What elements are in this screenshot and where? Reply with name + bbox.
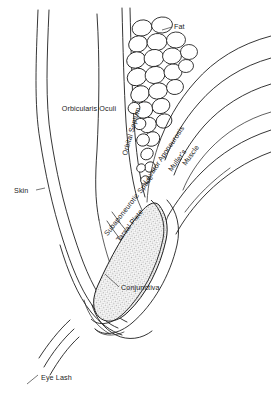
fat-globule: [142, 48, 165, 69]
fat-globule: [147, 81, 170, 102]
fat-globule: [143, 64, 167, 85]
mullers-muscle-fiber: [185, 168, 230, 212]
label-skin: Skin: [14, 186, 28, 195]
fat-globule: [128, 83, 152, 106]
mullers-muscle-upper-border: [168, 130, 271, 216]
label-orbicularis-oculi: Orbicularis Oculi: [60, 104, 118, 113]
mullers-muscle-lower-border: [176, 152, 271, 234]
orbicularis-posterior-border: [96, 14, 99, 220]
fat-globule: [165, 78, 184, 96]
fat-globule: [166, 31, 186, 48]
eye-lash-group: [39, 320, 79, 375]
eyelid-cross-section-diagram: Fat Orbicularis Oculi Skin Conjunctiva E…: [0, 0, 271, 399]
fat-globule: [154, 112, 174, 131]
fat-globule: [150, 96, 172, 116]
orbicularis-oculi-group: [96, 14, 120, 287]
fat-globule: [180, 44, 198, 60]
fat-globule: [130, 18, 153, 38]
leader-line-eyelash: [27, 375, 38, 384]
mullers-muscle-group: [159, 130, 271, 245]
fat-globule: [162, 47, 183, 65]
leader-line-skin: [36, 188, 45, 190]
eye-lash-line: [50, 337, 79, 375]
label-fat: Fat: [174, 22, 185, 31]
fat-globule: [151, 16, 174, 34]
label-conjunctiva: Conjunctiva: [121, 283, 160, 292]
fat-globule: [139, 146, 156, 162]
fat-globule: [146, 32, 169, 52]
label-eye-lash: Eye Lash: [41, 373, 72, 382]
